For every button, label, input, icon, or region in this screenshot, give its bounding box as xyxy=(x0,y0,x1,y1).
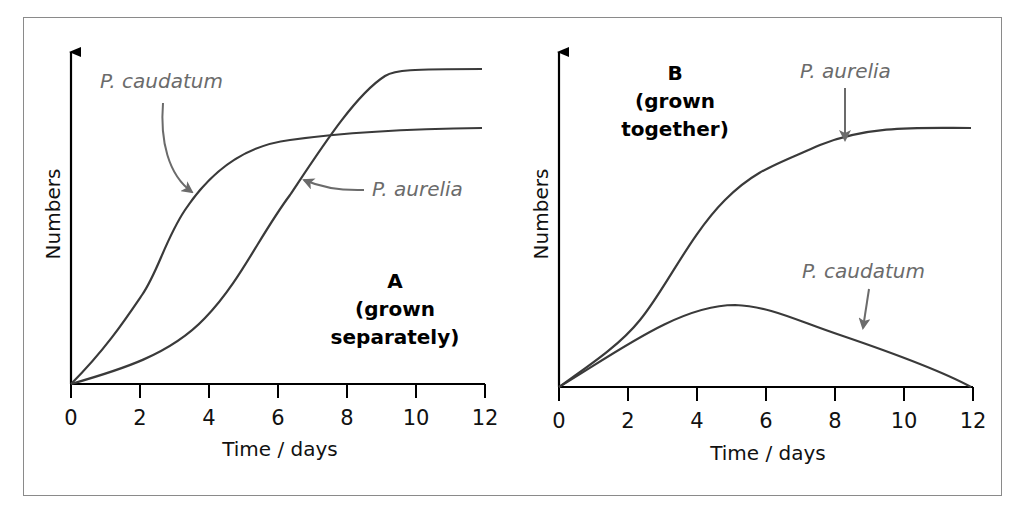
tick-label: 6 xyxy=(271,406,284,430)
arrow-p-aurelia-a xyxy=(304,180,364,190)
arrow-p-caudatum-a xyxy=(162,103,192,192)
panel-subtitle-b-line1: (grown xyxy=(635,89,715,113)
tick-label: 2 xyxy=(621,409,634,433)
tick-label: 2 xyxy=(133,406,146,430)
panel-subtitle-b-line2: together) xyxy=(621,117,729,141)
label-p-aurelia-b: P. aurelia xyxy=(800,59,891,83)
tick-label: 4 xyxy=(690,409,703,433)
arrow-p-caudatum-b xyxy=(863,289,869,328)
curve-p-caudatum-b xyxy=(559,305,971,387)
x-ticks-a xyxy=(71,384,485,398)
label-p-caudatum-a: P. caudatum xyxy=(100,69,223,93)
tick-label: 10 xyxy=(403,406,430,430)
panel-subtitle-a-line2: separately) xyxy=(331,325,460,349)
y-axis-label-b: Numbers xyxy=(529,169,553,260)
x-ticks-b xyxy=(559,387,973,401)
tick-label: 12 xyxy=(472,406,499,430)
tick-label: 0 xyxy=(552,409,565,433)
x-axis-label-a: Time / days xyxy=(221,437,338,461)
panel-subtitle-a-line1: (grown xyxy=(355,297,435,321)
tick-label: 10 xyxy=(891,409,918,433)
label-p-caudatum-b: P. caudatum xyxy=(802,259,925,283)
label-p-aurelia-a: P. aurelia xyxy=(372,177,463,201)
tick-label: 6 xyxy=(759,409,772,433)
panel-title-b: B xyxy=(667,61,682,85)
tick-label: 8 xyxy=(828,409,841,433)
tick-label: 4 xyxy=(202,406,215,430)
tick-label: 0 xyxy=(64,406,77,430)
figure-svg: 0 2 4 6 8 10 12 Time / days Numbers P. c… xyxy=(0,0,1029,520)
tick-label: 12 xyxy=(960,409,987,433)
tick-label: 8 xyxy=(340,406,353,430)
x-tick-labels-b: 0 2 4 6 8 10 12 xyxy=(552,409,986,433)
x-tick-labels-a: 0 2 4 6 8 10 12 xyxy=(64,406,498,430)
panel-title-a: A xyxy=(387,269,403,293)
panel-a: 0 2 4 6 8 10 12 Time / days Numbers P. c… xyxy=(41,52,498,461)
x-axis-label-b: Time / days xyxy=(709,441,826,465)
panel-b: 0 2 4 6 8 10 12 Time / days Numbers P. a… xyxy=(529,52,986,465)
y-axis-label-a: Numbers xyxy=(41,169,65,260)
